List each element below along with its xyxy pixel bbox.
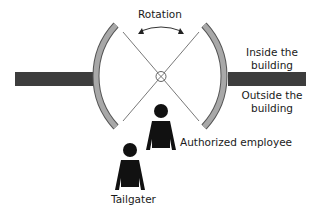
rotation-arrowhead-left: [138, 28, 144, 34]
inside-label-line2: building: [241, 59, 303, 72]
inside-label-line1: Inside the: [241, 46, 303, 59]
authorized-employee-icon: [146, 104, 176, 150]
rotation-arrow-icon: [141, 27, 181, 31]
tailgater-label: Tailgater: [111, 193, 156, 206]
authorized-employee-label: Authorized employee: [180, 136, 292, 149]
outside-label-line2: building: [238, 102, 306, 115]
left-wall: [15, 72, 93, 86]
outside-label-line1: Outside the: [238, 89, 306, 102]
inside-building-label: Inside the building: [241, 46, 303, 72]
rotation-arrowhead-right: [178, 28, 184, 34]
outside-building-label: Outside the building: [238, 89, 306, 115]
right-wall: [228, 72, 306, 86]
tailgater-icon: [115, 143, 145, 190]
rotation-label: Rotation: [138, 8, 182, 21]
